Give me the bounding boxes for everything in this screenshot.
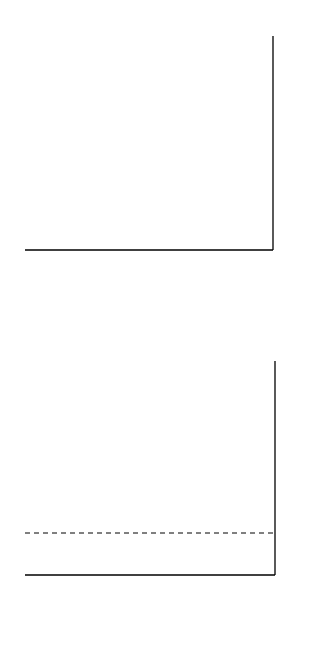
pao2-time-chart (25, 361, 275, 620)
figure (0, 0, 324, 650)
pressure-volume-chart (25, 36, 307, 250)
